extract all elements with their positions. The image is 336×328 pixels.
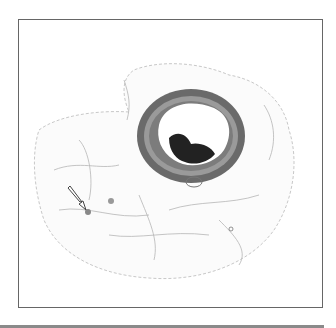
tissue-section-image bbox=[19, 20, 324, 309]
micrograph-frame bbox=[18, 19, 323, 308]
